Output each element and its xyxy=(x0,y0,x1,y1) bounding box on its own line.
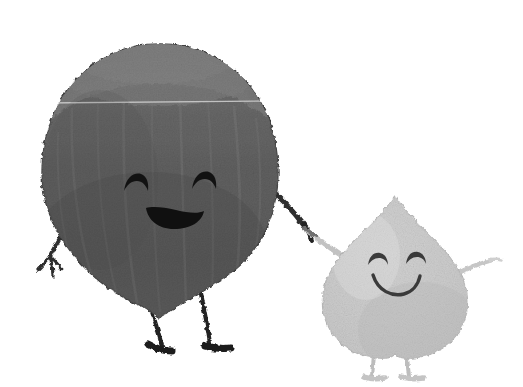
illustration-canvas: Two hand-drawn nut characters holding ha… xyxy=(0,0,523,387)
nut-characters-illustration xyxy=(0,0,523,387)
